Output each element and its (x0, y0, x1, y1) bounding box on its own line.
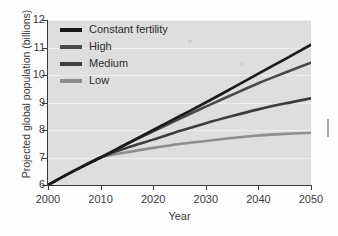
legend-item-label: Medium (89, 58, 128, 69)
scan-speck (240, 62, 243, 66)
x-axis-tick-label: 2020 (133, 193, 173, 205)
series-line (48, 98, 311, 185)
x-axis-tick (101, 185, 102, 190)
y-axis-tick-label: 12 (15, 14, 45, 25)
legend-swatch (60, 28, 82, 32)
y-axis-tick-label: 9 (15, 97, 45, 108)
legend-item-label: Constant fertility (89, 24, 168, 35)
legend-swatch (60, 79, 82, 83)
legend-swatch (60, 62, 82, 66)
population-projection-chart: Projected global population (billions) Y… (0, 0, 338, 236)
x-axis-tick (311, 185, 312, 190)
x-axis-tick-label: 2040 (238, 193, 278, 205)
legend: Constant fertilityHighMediumLow (60, 22, 168, 90)
x-axis-tick-label: 2000 (28, 193, 68, 205)
x-axis-tick-label: 2050 (291, 193, 331, 205)
x-axis-tick (258, 185, 259, 190)
legend-swatch (60, 45, 82, 49)
series-line (48, 133, 311, 185)
y-axis-tick-label: 7 (15, 152, 45, 163)
x-axis-tick-label: 2030 (186, 193, 226, 205)
y-axis-tick-label: 6 (15, 179, 45, 190)
y-axis-tick-label: 8 (15, 124, 45, 135)
y-axis-tick-label: 10 (15, 69, 45, 80)
page-edge-mark (327, 119, 329, 137)
legend-item: Medium (60, 56, 168, 71)
x-axis-title: Year (48, 210, 311, 222)
legend-item-label: High (89, 41, 112, 52)
x-axis-tick (48, 185, 49, 190)
legend-item: Constant fertility (60, 22, 168, 37)
x-axis-tick (206, 185, 207, 190)
y-axis-line (47, 20, 48, 186)
x-axis-line (47, 185, 312, 186)
legend-item: Low (60, 73, 168, 88)
legend-item: High (60, 39, 168, 54)
x-axis-tick (153, 185, 154, 190)
x-axis-tick-label: 2010 (81, 193, 121, 205)
legend-item-label: Low (89, 75, 109, 86)
y-axis-tick-label: 11 (15, 42, 45, 53)
scan-speck (188, 40, 192, 43)
